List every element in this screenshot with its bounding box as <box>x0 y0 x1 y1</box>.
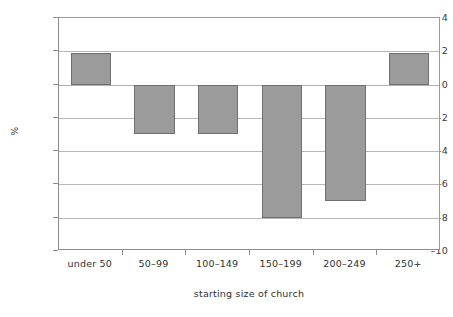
x-tick-label: 250+ <box>395 258 422 269</box>
gridline-neg8 <box>59 218 439 219</box>
y-axis-title: % <box>2 118 28 144</box>
bar <box>389 53 429 85</box>
x-axis-title: starting size of church <box>58 288 440 299</box>
x-tick-mark <box>122 250 123 255</box>
y-tick-mark <box>53 250 58 251</box>
x-tick-label: under 50 <box>68 258 113 269</box>
x-tick-label: 50–99 <box>139 258 169 269</box>
x-tick-label: 150–199 <box>260 258 302 269</box>
gridline-neg2 <box>59 118 439 119</box>
gridline-2 <box>59 51 439 52</box>
x-tick-mark <box>185 250 186 255</box>
bar <box>71 53 111 85</box>
bar <box>262 85 302 218</box>
gridline-neg4 <box>59 151 439 152</box>
x-tick-mark <box>249 250 250 255</box>
x-tick-mark <box>313 250 314 255</box>
gridline-neg6 <box>59 184 439 185</box>
bar-chart: % 420–2–4–6–8–10 under 5050–99100–149150… <box>0 0 453 317</box>
x-tick-label: 200–249 <box>323 258 365 269</box>
bar <box>134 85 174 135</box>
plot-area <box>58 17 440 250</box>
gridline-0 <box>59 85 439 86</box>
bar <box>198 85 238 135</box>
x-tick-mark <box>376 250 377 255</box>
bar <box>325 85 365 202</box>
x-tick-label: 100–149 <box>196 258 238 269</box>
